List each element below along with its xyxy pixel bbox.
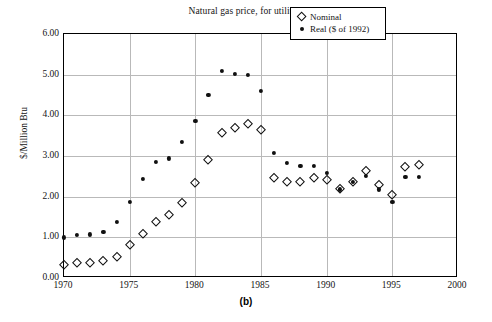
data-point-real	[62, 235, 66, 239]
data-point-real	[220, 69, 224, 73]
data-point-nominal	[151, 217, 161, 227]
y-axis-title: $/Million Btu	[19, 73, 29, 193]
data-point-real	[128, 199, 132, 203]
data-point-real	[285, 161, 289, 165]
data-point-real	[114, 220, 118, 224]
data-point-real	[377, 187, 381, 191]
data-point-nominal	[59, 259, 69, 269]
data-point-nominal	[111, 252, 121, 262]
data-point-real	[417, 175, 421, 179]
data-point-real	[75, 233, 79, 237]
data-point-nominal	[190, 178, 200, 188]
data-point-nominal	[321, 175, 331, 185]
chart-title: Natural gas price, for utilities	[0, 6, 492, 16]
x-axis-tick-labels: 1970197519801985199019952000	[63, 280, 457, 294]
data-point-nominal	[98, 256, 108, 266]
data-point-real	[390, 199, 394, 203]
legend-label: Nominal	[310, 11, 342, 23]
figure: Natural gas price, for utilities 0.001.0…	[0, 0, 492, 322]
data-point-nominal	[203, 154, 213, 164]
data-point-real	[311, 164, 315, 168]
data-point-real	[325, 171, 329, 175]
open-diamond-icon	[296, 11, 310, 23]
legend: Nominal Real ($ of 1992)	[290, 7, 386, 40]
data-point-nominal	[177, 198, 187, 208]
data-point-real	[233, 72, 237, 76]
data-point-nominal	[85, 257, 95, 267]
data-point-nominal	[164, 210, 174, 220]
data-point-nominal	[282, 177, 292, 187]
data-point-real	[259, 88, 263, 92]
data-point-real	[364, 173, 368, 177]
data-point-real	[272, 151, 276, 155]
data-point-real	[193, 119, 197, 123]
data-point-real	[206, 93, 210, 97]
x-axis-tick-label: 2000	[435, 280, 479, 291]
data-point-real	[180, 140, 184, 144]
data-point-nominal	[243, 119, 253, 129]
data-point-real	[403, 175, 407, 179]
data-point-nominal	[308, 173, 318, 183]
data-point-nominal	[256, 125, 266, 135]
x-axis-tick-label: 1980	[172, 280, 216, 291]
x-axis-tick-label: 1985	[238, 280, 282, 291]
x-axis-tick-label: 1975	[107, 280, 151, 291]
y-axis-tick-label: 1.00	[19, 231, 59, 241]
data-point-real	[167, 156, 171, 160]
data-point-nominal	[124, 240, 134, 250]
x-axis-tick-label: 1995	[369, 280, 413, 291]
data-point-nominal	[269, 173, 279, 183]
legend-label: Real ($ of 1992)	[310, 23, 369, 35]
filled-circle-icon	[296, 23, 310, 35]
legend-entry-nominal: Nominal	[296, 11, 380, 23]
data-point-nominal	[295, 177, 305, 187]
data-point-real	[298, 164, 302, 168]
data-point-nominal	[400, 162, 410, 172]
data-point-nominal	[72, 258, 82, 268]
x-axis-tick-label: 1990	[304, 280, 348, 291]
x-axis-tick-label: 1970	[41, 280, 85, 291]
data-point-real	[246, 73, 250, 77]
data-point-real	[154, 160, 158, 164]
y-axis-tick-label: 6.00	[19, 28, 59, 38]
data-point-nominal	[138, 228, 148, 238]
plot-area	[63, 33, 457, 277]
data-point-real	[101, 230, 105, 234]
legend-entry-real: Real ($ of 1992)	[296, 23, 380, 35]
data-point-nominal	[229, 123, 239, 133]
data-point-real	[141, 177, 145, 181]
data-points-layer	[64, 34, 456, 276]
data-point-nominal	[216, 128, 226, 138]
data-point-nominal	[413, 160, 423, 170]
panel-label: (b)	[0, 296, 492, 307]
data-point-real	[88, 232, 92, 236]
